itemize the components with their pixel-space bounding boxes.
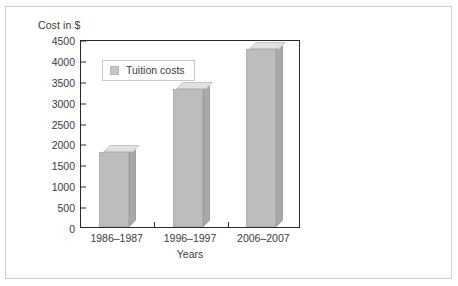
bar (246, 49, 276, 227)
x-tick-mark (154, 222, 155, 227)
plot-area: 050010001500200025003000350040004500Tuit… (80, 40, 300, 228)
y-tick-label: 1500 (52, 161, 81, 172)
y-tick-mark (81, 82, 86, 83)
bar-top-face (103, 145, 140, 152)
chart-legend: Tuition costs (102, 60, 195, 81)
bar-side-face (203, 82, 210, 227)
y-tick-label: 500 (57, 203, 81, 214)
bar-front-face (99, 152, 129, 227)
bar (99, 152, 129, 227)
x-tick-mark (228, 222, 229, 227)
y-tick-mark (81, 208, 86, 209)
y-tick-mark (81, 124, 86, 125)
x-axis-title: Years (177, 248, 203, 260)
y-tick-mark (81, 145, 86, 146)
legend-swatch-icon (110, 66, 119, 75)
bar-side-face (129, 145, 136, 227)
legend-label: Tuition costs (126, 65, 185, 76)
x-tick-label: 1996–1997 (164, 232, 217, 244)
y-axis-title: Cost in $ (38, 19, 80, 31)
y-tick-label: 2500 (52, 119, 81, 130)
y-tick-mark (81, 41, 86, 42)
x-tick-label: 2006–2007 (237, 232, 290, 244)
y-tick-mark (81, 187, 86, 188)
y-tick-label: 3000 (52, 98, 81, 109)
y-tick-label: 0 (69, 224, 81, 235)
y-tick-mark (81, 103, 86, 104)
y-tick-label: 2000 (52, 140, 81, 151)
y-tick-mark (81, 61, 86, 62)
y-tick-label: 4000 (52, 57, 81, 68)
bar (173, 89, 203, 227)
y-tick-mark (81, 166, 86, 167)
y-tick-label: 3500 (52, 78, 81, 89)
bar-side-face (276, 42, 283, 227)
y-tick-label: 1000 (52, 182, 81, 193)
bar-front-face (173, 89, 203, 227)
bar-front-face (246, 49, 276, 227)
x-tick-label: 1986–1987 (90, 232, 143, 244)
chart-figure: Cost in $ 050010001500200025003000350040… (0, 0, 458, 286)
y-tick-label: 4500 (52, 36, 81, 47)
